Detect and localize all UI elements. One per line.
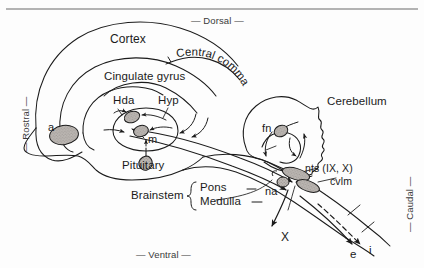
medulla-label: Medulla — [200, 196, 241, 208]
nts-label: nts (IX, X) — [305, 163, 353, 174]
amygdala-label: a — [48, 122, 54, 133]
hda-label: Hda — [113, 95, 134, 107]
diagram-canvas: Central command — [0, 0, 424, 268]
fastigial-nucleus-label: fn — [262, 123, 271, 134]
pons-label: Pons — [200, 182, 227, 194]
mammillary-label: m — [148, 134, 157, 145]
cingulate-gyrus-label: Cingulate gyrus — [104, 71, 185, 83]
caudal-axis-label: — Caudal — — [405, 177, 415, 232]
na-label: na — [265, 186, 277, 197]
cingulate-descending-arrow — [180, 114, 196, 133]
pituitary-label: Pituitary — [122, 160, 164, 172]
vagus-label: X — [281, 231, 289, 243]
nucleus-ambiguus — [277, 177, 289, 187]
cerebellum-label: Cerebellum — [327, 96, 387, 108]
brain-schematic-figure: Central command Cortex Cingulate gyrus H… — [0, 0, 424, 268]
afferent-label: i — [369, 245, 372, 257]
dorsal-axis-label: — Dorsal — — [191, 16, 244, 26]
efferent-label: e — [350, 249, 357, 261]
nuclei-group — [48, 109, 321, 195]
cortex-to-hypothalamus-arrow — [192, 118, 208, 137]
cvlm-label: cvlm — [330, 176, 352, 187]
ventral-axis-label: — Ventral — — [136, 250, 191, 260]
hyp-label: Hyp — [158, 95, 179, 107]
brainstem-brace — [187, 182, 196, 210]
fastigial-nucleus — [272, 123, 289, 139]
brainstem-label: Brainstem — [131, 190, 184, 202]
cortex-label: Cortex — [110, 33, 146, 45]
rostral-axis-label: — Rostral — — [21, 97, 31, 152]
